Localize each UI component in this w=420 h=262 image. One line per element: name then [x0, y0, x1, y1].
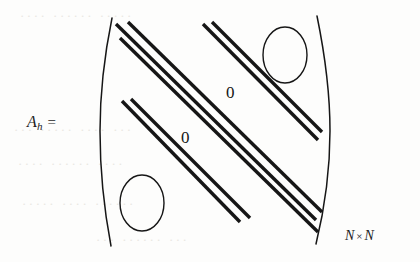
dimension-cols: N	[365, 228, 374, 243]
dimension-times-icon: ×	[356, 230, 362, 242]
matrix-structure-figure	[0, 0, 420, 262]
dimension-rows: N	[345, 228, 354, 243]
lower-offdiagonal-band	[122, 99, 250, 222]
dimension-label: N×N	[345, 228, 374, 244]
zero-mark-lower: 0	[181, 129, 190, 146]
zero-mark-upper: 0	[226, 84, 235, 101]
upper-right-zero-block-icon	[263, 27, 307, 83]
figure-page: ···· ······ ····· ··· ····· ···· ··· ···…	[0, 0, 420, 262]
left-paren-icon	[100, 18, 112, 246]
lower-left-zero-block-icon	[120, 175, 164, 231]
